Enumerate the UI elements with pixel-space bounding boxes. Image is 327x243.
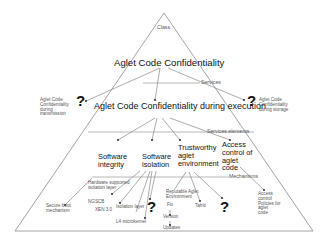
element-software-integrity: Software integrity [98, 153, 127, 169]
mechanism-tahiti: Tahiti [195, 204, 206, 209]
level-label-class: Class [157, 25, 170, 30]
service-storage: Aglet Code Confidentiality during storag… [259, 98, 293, 112]
mechanism-xen: XEN 3.0 [95, 208, 112, 213]
element-access-control: Access control of aglet code [222, 141, 252, 172]
class-node: Aglet Code Confidentiality [114, 58, 224, 68]
service-transmission-unknown-marker: ? [76, 93, 85, 108]
mechanism-l4-microkernel: L4 microkernel [116, 220, 146, 225]
level-label-mechanisms: Mechanisms [229, 174, 258, 179]
service-storage-unknown-marker: ? [247, 93, 256, 108]
level-label-services-elements: Services elements [207, 129, 249, 134]
mechanism-ngscb: NGSCB [88, 200, 104, 205]
service-transmission: Aglet Code Confidentiality during transm… [40, 98, 78, 117]
mechanism-hw-isolation: Hardware supported isolation layer [88, 181, 130, 191]
mechanism-version: Version [163, 215, 178, 220]
mechanism-fix: Fix [167, 203, 173, 208]
level-label-services: Services [201, 80, 221, 85]
service-execution: Aglet Code Confidentiality during execut… [94, 102, 266, 111]
environment-unknown-marker: ? [220, 199, 229, 214]
mechanism-updates: Updates [163, 226, 180, 231]
isolation-unknown-marker: ? [147, 199, 156, 214]
element-trustworthy-environment: Trustworthy aglet environment [178, 144, 219, 167]
mechanism-reputable-environment: Reputable Aglet Environment [166, 190, 198, 200]
mechanism-access-policies: Access control Policies for aglet code [258, 192, 280, 216]
mechanism-isolation-layer: Isolation layer [116, 205, 144, 210]
element-software-isolation: Software isolation [142, 153, 171, 169]
mechanism-secure-boot: Secure boot mechanism [46, 204, 71, 214]
